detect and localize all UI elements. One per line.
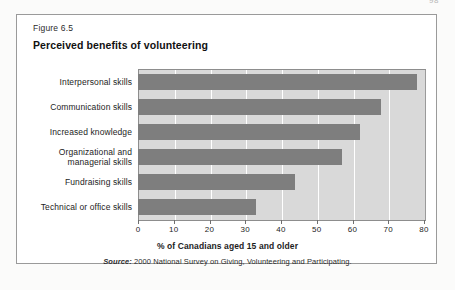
bar-1 [138, 74, 417, 90]
bar-4 [138, 149, 342, 165]
tick-mark-60 [353, 220, 354, 224]
x-tick-label-50: 50 [312, 225, 321, 234]
bar-chart: 01020304050607080 % of Canadians aged 15… [17, 15, 438, 265]
bar-row [138, 174, 424, 190]
bar-2 [138, 99, 381, 115]
x-tick-label-70: 70 [384, 225, 393, 234]
bar-row [138, 74, 424, 90]
gridline-20 [211, 70, 212, 220]
x-axis-tick-row: 01020304050607080 [138, 225, 424, 237]
gridline-40 [282, 70, 283, 220]
source-label: Source: [103, 257, 132, 266]
category-label-6: Technical or office skills [16, 202, 132, 212]
figure-box: Figure 6.5 Perceived benefits of volunte… [16, 14, 437, 264]
bar-5 [138, 174, 295, 190]
source-note: Source: 2000 National Survey on Giving, … [17, 257, 438, 266]
tick-mark-80 [424, 220, 425, 224]
x-tick-label-10: 10 [169, 225, 178, 234]
gridline-60 [354, 70, 355, 220]
tick-mark-50 [317, 220, 318, 224]
tick-mark-0 [138, 220, 139, 224]
gridline-50 [318, 70, 319, 220]
page-canvas: 98 Figure 6.5 Perceived benefits of volu… [0, 0, 455, 290]
category-label-5: Fundraising skills [16, 177, 132, 187]
page-number: 98 [429, 0, 439, 5]
bar-6 [138, 199, 256, 215]
x-tick-label-40: 40 [276, 225, 285, 234]
x-tick-label-0: 0 [136, 225, 141, 234]
tick-mark-20 [210, 220, 211, 224]
bar-3 [138, 124, 360, 140]
bar-row [138, 124, 424, 140]
gridline-80 [425, 70, 426, 220]
x-tick-label-30: 30 [241, 225, 250, 234]
tick-mark-30 [245, 220, 246, 224]
x-axis-title: % of Canadians aged 15 and older [17, 241, 438, 251]
x-tick-label-80: 80 [419, 225, 428, 234]
category-label-2: Communication skills [16, 102, 132, 112]
tick-mark-40 [281, 220, 282, 224]
x-tick-label-20: 20 [205, 225, 214, 234]
bar-row [138, 149, 424, 165]
bar-row [138, 199, 424, 215]
bar-row [138, 99, 424, 115]
x-tick-label-60: 60 [348, 225, 357, 234]
source-body: 2000 National Survey on Giving, Voluntee… [132, 257, 352, 266]
gridline-30 [246, 70, 247, 220]
category-label-4: Organizational andmanagerial skills [16, 147, 132, 167]
tick-mark-70 [388, 220, 389, 224]
category-label-3: Increased knowledge [16, 127, 132, 137]
gridline-10 [175, 70, 176, 220]
tick-mark-10 [174, 220, 175, 224]
category-label-1: Interpersonal skills [16, 77, 132, 87]
gridline-70 [389, 70, 390, 220]
